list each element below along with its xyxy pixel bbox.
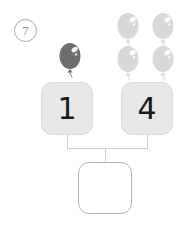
- answer-box[interactable]: [78, 162, 132, 214]
- balloon-group-left: [55, 41, 85, 81]
- connector-bar: [67, 148, 148, 149]
- connector-drop: [105, 148, 106, 163]
- balloon-icon: [113, 44, 143, 81]
- addend-card-left[interactable]: 1: [41, 82, 93, 135]
- worksheet-problem: 7: [0, 0, 185, 229]
- problem-number-badge: 7: [14, 19, 37, 42]
- balloon-icon: [55, 41, 85, 78]
- balloon-icon: [113, 11, 143, 48]
- balloon-icon: [148, 11, 178, 48]
- balloon-group-right: [112, 11, 182, 81]
- balloon-icon: [148, 44, 178, 81]
- connector-stub-left: [67, 135, 68, 149]
- addend-card-right[interactable]: 4: [121, 82, 173, 135]
- connector-stub-right: [147, 135, 148, 149]
